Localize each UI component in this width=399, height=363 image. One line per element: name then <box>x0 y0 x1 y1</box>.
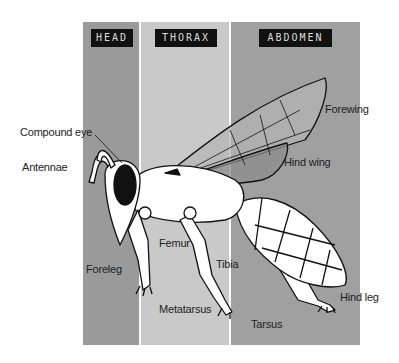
label-tibia: Tibia <box>216 258 238 270</box>
label-antennae: Antennae <box>22 161 68 173</box>
label-compound-eye: Compound eye <box>20 126 92 138</box>
label-tarsus: Tarsus <box>251 318 282 330</box>
label-foreleg: Foreleg <box>86 263 122 275</box>
label-forewing: Forewing <box>325 103 369 115</box>
label-hind-wing: Hind wing <box>284 156 331 168</box>
label-femur: Femur <box>159 237 190 249</box>
label-hind-leg: Hind leg <box>340 291 379 303</box>
label-metatarsus: Metatarsus <box>159 303 211 315</box>
